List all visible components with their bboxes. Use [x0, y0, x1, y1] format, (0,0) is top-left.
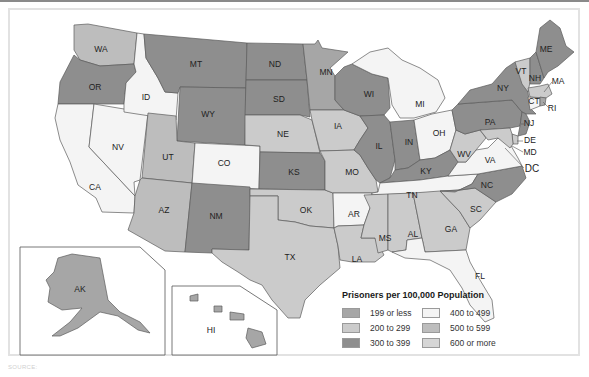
label-ms: MS: [379, 233, 392, 243]
legend-item-200-to-299: 200 to 299: [342, 321, 410, 334]
label-mi: MI: [415, 99, 424, 109]
label-wa: WA: [94, 44, 108, 54]
label-pa: PA: [485, 117, 496, 127]
label-nj: NJ: [524, 118, 534, 128]
label-co: CO: [218, 158, 231, 168]
label-ga: GA: [445, 224, 458, 234]
label-de: DE: [524, 135, 536, 145]
legend: Prisoners per 100,000 Population 199 or …: [330, 290, 570, 350]
legend-item-500-to-599: 500 to 599: [422, 321, 490, 334]
label-ny: NY: [497, 83, 509, 93]
label-ok: OK: [300, 205, 313, 215]
label-sc: SC: [470, 204, 482, 214]
legend-item-199-or-less: 199 or less: [342, 306, 412, 319]
legend-swatch: [342, 323, 360, 333]
label-id: ID: [142, 92, 151, 102]
label-il: IL: [375, 141, 382, 151]
label-mt: MT: [190, 59, 202, 69]
legend-swatch: [422, 338, 440, 348]
label-ks: KS: [288, 167, 300, 177]
label-fl: FL: [475, 271, 485, 281]
state-ri[interactable]: [540, 97, 546, 106]
label-nc: NC: [481, 180, 493, 190]
legend-item-300-to-399: 300 to 399: [342, 336, 410, 349]
label-nh: NH: [529, 73, 541, 83]
label-mn: MN: [319, 67, 332, 77]
legend-title: Prisoners per 100,000 Population: [342, 290, 484, 300]
legend-label: 600 or more: [450, 338, 496, 348]
label-ar: AR: [348, 209, 360, 219]
label-la: LA: [352, 254, 363, 264]
label-vt: VT: [516, 66, 527, 76]
label-tx: TX: [285, 252, 296, 262]
legend-label: 500 to 599: [450, 323, 490, 333]
label-oh: OH: [433, 128, 446, 138]
label-nv: NV: [112, 142, 124, 152]
label-wv: WV: [457, 149, 471, 159]
legend-label: 400 to 499: [450, 308, 490, 318]
label-in: IN: [405, 137, 414, 147]
label-ut: UT: [162, 152, 173, 162]
legend-item-600-or-more: 600 or more: [422, 336, 496, 349]
label-va: VA: [485, 155, 496, 165]
label-az: AZ: [159, 205, 170, 215]
label-wi: WI: [364, 89, 374, 99]
label-ne: NE: [277, 129, 289, 139]
legend-swatch: [422, 323, 440, 333]
label-hi: HI: [207, 325, 216, 335]
label-ky: KY: [420, 166, 432, 176]
label-ct: CT: [528, 96, 539, 106]
label-wy: WY: [201, 109, 215, 119]
state-az[interactable]: [128, 178, 192, 252]
legend-swatch: [342, 338, 360, 348]
label-nm: NM: [209, 211, 222, 221]
legend-swatch: [422, 308, 440, 318]
label-al: AL: [408, 229, 419, 239]
label-ma: MA: [552, 76, 565, 86]
label-mo: MO: [345, 167, 359, 177]
legend-label: 199 or less: [370, 308, 412, 318]
label-ia: IA: [334, 121, 342, 131]
legend-label: 200 to 299: [370, 323, 410, 333]
legend-swatch: [342, 308, 360, 318]
source-note: SOURCE:: [8, 364, 37, 370]
label-nd: ND: [269, 59, 281, 69]
label-dc: DC: [525, 163, 539, 174]
label-or: OR: [89, 82, 102, 92]
label-me: ME: [540, 44, 553, 54]
legend-item-400-to-499: 400 to 499: [422, 306, 490, 319]
legend-label: 300 to 399: [370, 338, 410, 348]
label-ak: AK: [74, 284, 86, 294]
label-sd: SD: [273, 94, 285, 104]
label-tn: TN: [406, 190, 417, 200]
label-ca: CA: [89, 182, 101, 192]
label-ri: RI: [548, 103, 557, 113]
label-md: MD: [523, 147, 536, 157]
